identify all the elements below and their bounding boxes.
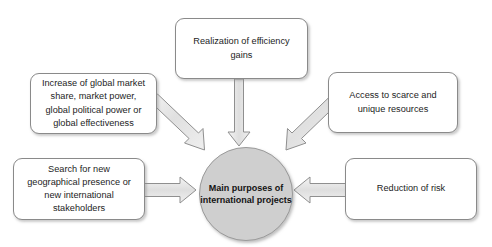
node-line: Realization of efficiency xyxy=(193,35,289,48)
center-hub-circle[interactable]: Main purposes of international projects xyxy=(199,147,293,241)
node-box-search[interactable]: Search for new geographical presence or … xyxy=(13,158,145,220)
node-label-search: Search for new geographical presence or … xyxy=(27,163,131,215)
node-line: Search for new xyxy=(27,163,131,176)
diagram-canvas: Realization of efficiency gains Increase… xyxy=(0,0,492,247)
node-label-resources: Access to scarce and unique resources xyxy=(349,89,436,115)
node-box-efficiency[interactable]: Realization of efficiency gains xyxy=(175,18,308,79)
arrow-search-to-center xyxy=(144,177,196,203)
arrow-efficiency-to-center xyxy=(228,79,250,146)
node-line: geographical presence or xyxy=(27,176,131,189)
node-box-resources[interactable]: Access to scarce and unique resources xyxy=(328,72,458,133)
node-box-risk[interactable]: Reduction of risk xyxy=(345,158,477,220)
center-hub-label: Main purposes of international projects xyxy=(200,182,292,207)
node-line: stakeholders xyxy=(27,202,131,215)
node-line: gains xyxy=(193,49,289,62)
center-line: purposes of xyxy=(232,183,284,193)
center-line: projects xyxy=(257,195,292,205)
node-label-risk: Reduction of risk xyxy=(377,182,445,195)
center-line: international xyxy=(200,195,254,205)
center-line: Main xyxy=(209,183,230,193)
node-line: unique resources xyxy=(349,103,436,116)
node-line: Reduction of risk xyxy=(377,182,445,195)
node-line: share, market power, xyxy=(42,90,145,103)
node-line: new international xyxy=(27,189,131,202)
node-box-market[interactable]: Increase of global market share, market … xyxy=(30,73,157,134)
node-line: Access to scarce and xyxy=(349,89,436,102)
arrow-risk-to-center xyxy=(294,177,346,203)
node-label-market: Increase of global market share, market … xyxy=(42,77,145,129)
node-line: global political power or xyxy=(42,104,145,117)
node-line: global effectiveness xyxy=(42,117,145,130)
node-label-efficiency: Realization of efficiency gains xyxy=(193,35,289,61)
node-line: Increase of global market xyxy=(42,77,145,90)
